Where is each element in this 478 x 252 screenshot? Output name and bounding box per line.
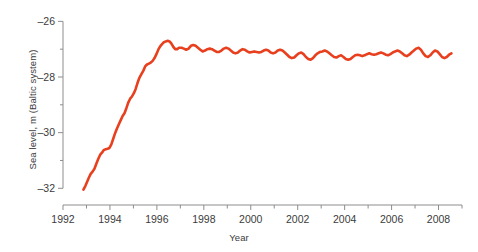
x-tick-label: 2006: [380, 213, 404, 225]
x-tick-label: 1998: [192, 213, 216, 225]
x-tick-label: 2008: [427, 213, 451, 225]
data-series-group: [83, 41, 451, 190]
y-axis-title: Sea level, m (Baltic system): [27, 30, 38, 190]
x-axis: 199219941996199820002002200420062008: [51, 205, 462, 225]
y-tick-label: –30: [37, 126, 55, 138]
x-tick-label: 2002: [286, 213, 310, 225]
x-tick-label: 1992: [51, 213, 75, 225]
x-axis-title: Year: [0, 232, 478, 243]
x-tick-label: 2004: [333, 213, 357, 225]
y-tick-label: –26: [37, 15, 55, 27]
y-axis: –26–28–30–32: [37, 15, 63, 194]
chart-figure: –26–28–30–32 199219941996199820002002200…: [0, 0, 478, 252]
y-tick-label: –32: [37, 182, 55, 194]
x-tick-label: 2000: [239, 213, 263, 225]
x-tick-label: 1996: [145, 213, 169, 225]
sea-level-line-chart: –26–28–30–32 199219941996199820002002200…: [0, 0, 478, 252]
y-tick-label: –28: [37, 71, 55, 83]
x-tick-label: 1994: [98, 213, 122, 225]
series-line-sea-level: [83, 41, 451, 190]
